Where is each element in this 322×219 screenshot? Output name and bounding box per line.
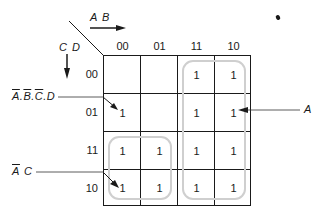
group-not-a-c-leader-arrow-icon <box>0 0 322 219</box>
